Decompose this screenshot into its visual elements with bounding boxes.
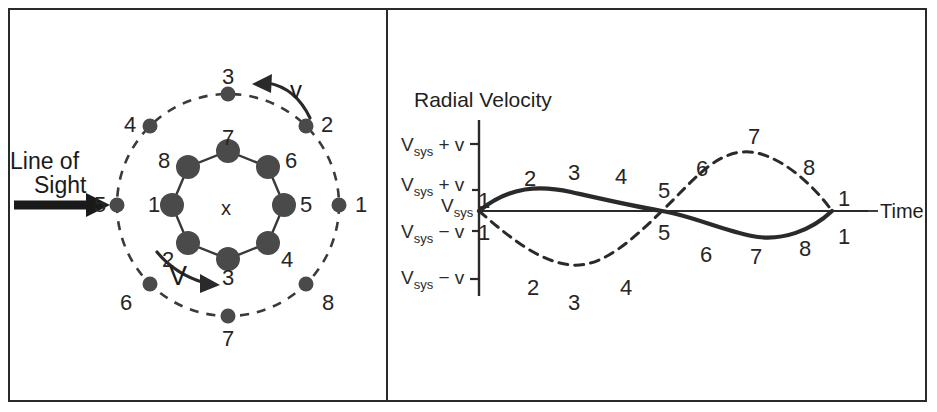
dashed-point-label-9: 1 bbox=[838, 188, 850, 210]
y-tick-label-4-base: V bbox=[401, 221, 414, 242]
solid-point-label-8: 8 bbox=[799, 238, 811, 260]
y-tick-label-5-op: − v bbox=[433, 267, 464, 288]
y-tick-label-4: Vsys − v bbox=[401, 222, 464, 245]
y-tick-label-3-base: V bbox=[441, 195, 454, 216]
solid-velocity-curve bbox=[479, 188, 832, 237]
y-tick-label-1: Vsys + v bbox=[401, 135, 464, 158]
y-tick-label-2: Vsys + v bbox=[401, 175, 464, 198]
figure-root: Line of Sight x v V 1 2 3 4 5 6 7 8 1 2 … bbox=[0, 0, 937, 412]
solid-point-label-1: 1 bbox=[478, 190, 490, 212]
solid-point-label-7: 7 bbox=[750, 246, 762, 268]
dashed-point-label-2: 2 bbox=[527, 277, 539, 299]
y-tick-label-2-op: + v bbox=[433, 174, 464, 195]
dashed-point-label-3: 3 bbox=[568, 292, 580, 314]
y-tick-label-3: Vsys bbox=[441, 196, 473, 219]
dashed-point-label-4: 4 bbox=[620, 277, 632, 299]
dashed-point-label-8: 8 bbox=[803, 157, 815, 179]
solid-point-label-2: 2 bbox=[524, 168, 536, 190]
solid-point-label-4: 4 bbox=[615, 166, 627, 188]
solid-point-label-3: 3 bbox=[568, 162, 580, 184]
dashed-point-label-5: 5 bbox=[658, 222, 670, 244]
solid-point-label-5: 5 bbox=[658, 180, 670, 202]
y-tick-label-1-base: V bbox=[401, 134, 414, 155]
y-tick-label-5: Vsys − v bbox=[401, 268, 464, 291]
y-tick-label-4-sub: sys bbox=[414, 231, 434, 246]
dashed-point-label-7: 7 bbox=[748, 126, 760, 148]
dashed-point-label-6: 6 bbox=[696, 158, 708, 180]
chart-title: Radial Velocity bbox=[414, 88, 552, 112]
y-tick-label-1-op: + v bbox=[433, 134, 464, 155]
y-tick-label-2-sub: sys bbox=[414, 184, 434, 199]
solid-point-label-6: 6 bbox=[700, 244, 712, 266]
y-tick-label-1-sub: sys bbox=[414, 144, 434, 159]
y-tick-label-5-base: V bbox=[401, 267, 414, 288]
x-axis-label: Time bbox=[880, 200, 924, 223]
y-tick-label-3-sub: sys bbox=[454, 205, 474, 220]
dashed-point-label-1: 1 bbox=[478, 222, 490, 244]
solid-point-label-9: 1 bbox=[838, 226, 850, 248]
y-tick-label-4-op: − v bbox=[433, 221, 464, 242]
y-tick-label-5-sub: sys bbox=[414, 277, 434, 292]
y-tick-label-2-base: V bbox=[401, 174, 414, 195]
